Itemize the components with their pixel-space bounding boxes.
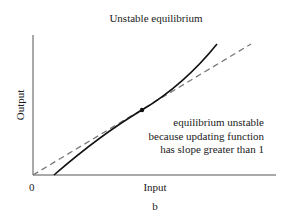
origin-label: 0 [29,180,35,194]
annotation-text: equilibrium unstable because updating fu… [149,116,264,157]
annotation-line-2: because updating function [149,130,264,144]
annotation-line-1: equilibrium unstable [149,116,264,130]
panel-label: b [152,199,158,213]
y-axis-label: Output [14,90,26,121]
x-axis-label: Input [143,180,166,194]
unstable-equilibrium-figure: Unstable equilibrium Output 0 Input b eq… [0,0,289,222]
equilibrium-point [140,108,144,112]
annotation-line-3: has slope greater than 1 [149,143,264,157]
